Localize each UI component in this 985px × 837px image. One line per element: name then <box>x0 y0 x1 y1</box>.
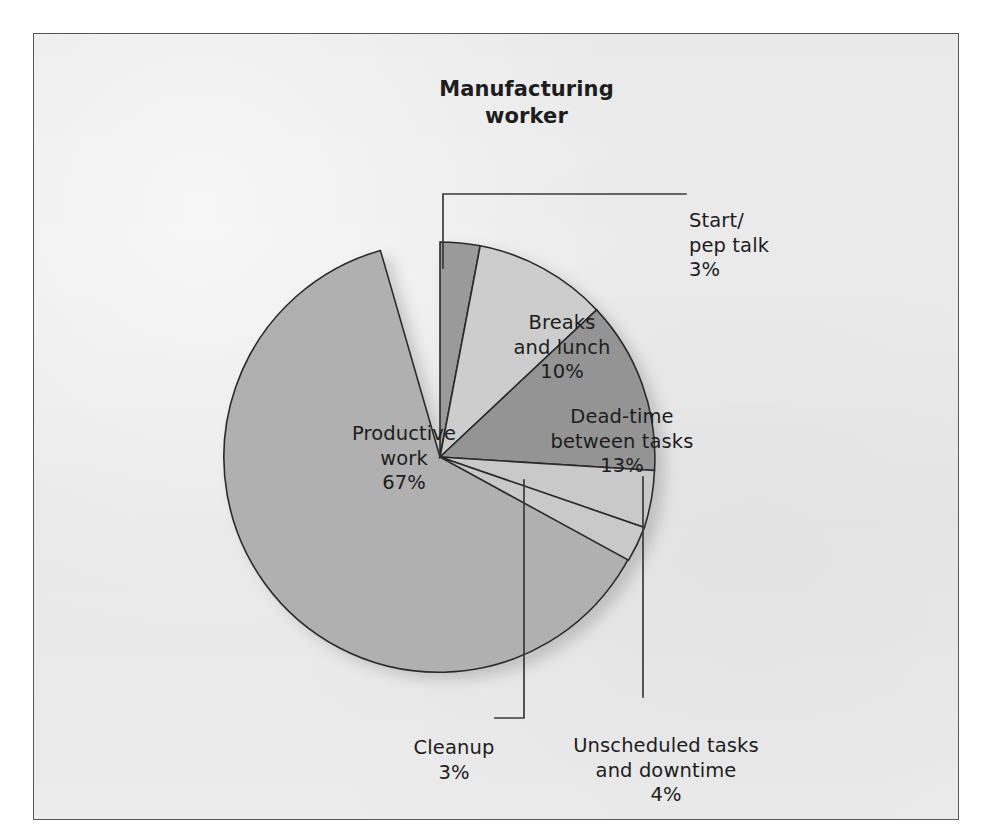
chart-title: Manufacturing worker <box>34 76 959 129</box>
figure-canvas: Manufacturing worker Start/ pep talk 3% … <box>0 0 985 837</box>
slice-label-cleanup: Cleanup 3% <box>374 736 534 785</box>
slice-label-dead-time: Dead-time between tasks 13% <box>523 405 721 479</box>
slice-label-unscheduled-tasks: Unscheduled tasks and downtime 4% <box>552 734 780 808</box>
chart-plate: Manufacturing worker Start/ pep talk 3% … <box>33 33 959 820</box>
slice-label-breaks-and-lunch: Breaks and lunch 10% <box>477 311 647 385</box>
pie-chart-graphic <box>33 33 959 820</box>
slice-label-start-pep-talk: Start/ pep talk 3% <box>689 209 874 283</box>
slice-label-productive-work: Productive work 67% <box>313 422 495 496</box>
